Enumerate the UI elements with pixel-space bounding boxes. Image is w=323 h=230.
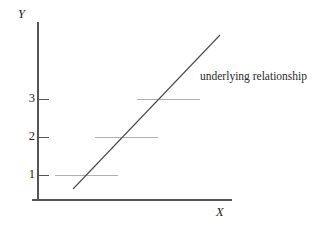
y-tick-label-2: 2 xyxy=(21,130,35,143)
y-axis-label: Y xyxy=(18,8,25,21)
trend-line xyxy=(73,35,220,189)
x-axis-label: X xyxy=(216,206,224,219)
y-tick-label-1: 1 xyxy=(21,168,35,181)
plot-area xyxy=(0,0,323,230)
y-tick-label-3: 3 xyxy=(21,92,35,105)
y-tick-mark-group xyxy=(38,99,49,175)
chart-figure: Y X 3 2 1 underlying relationship xyxy=(0,0,323,230)
trend-line-annotation: underlying relationship xyxy=(200,71,307,83)
level-segment-group xyxy=(55,99,200,175)
